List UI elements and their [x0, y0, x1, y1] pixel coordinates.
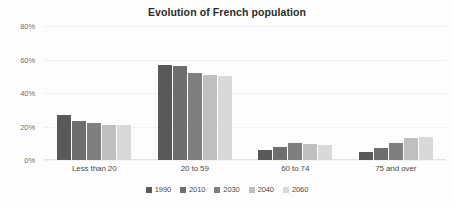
legend-item-2010[interactable]: 2010	[180, 185, 205, 194]
bar-2060-less-than-20	[117, 125, 131, 160]
bar-group	[359, 26, 433, 160]
bar-2030-60-to-74	[288, 143, 302, 160]
bar-2040-75-and-over	[404, 138, 418, 160]
bar-1990-60-to-74	[258, 150, 272, 160]
legend-item-2030[interactable]: 2030	[214, 185, 239, 194]
bar-chart: Evolution of French population 0%20%40%6…	[0, 0, 454, 206]
legend-label: 2040	[258, 185, 274, 194]
bar-2030-75-and-over	[389, 143, 403, 160]
y-axis-tick-label: 40%	[20, 89, 35, 98]
legend-swatch-icon	[214, 187, 220, 193]
legend-swatch-icon	[146, 187, 152, 193]
bar-1990-less-than-20	[57, 115, 71, 160]
legend-swatch-icon	[283, 187, 289, 193]
bar-group	[158, 26, 232, 160]
bar-2010-less-than-20	[72, 121, 86, 160]
plot-area	[44, 26, 446, 160]
chart-title: Evolution of French population	[0, 6, 454, 18]
bar-1990-75-and-over	[359, 152, 373, 160]
bar-2030-less-than-20	[87, 123, 101, 160]
y-axis: 0%20%40%60%80%	[0, 26, 40, 160]
legend-label: 1990	[155, 185, 171, 194]
y-axis-tick-label: 0%	[24, 156, 35, 165]
x-axis-category-label: 20 to 59	[145, 164, 246, 173]
bar-2060-20-to-59	[218, 76, 232, 160]
bar-1990-20-to-59	[158, 65, 172, 160]
chart-legend: 19902010203020402060	[0, 185, 454, 194]
bar-group	[258, 26, 332, 160]
y-axis-tick-label: 20%	[20, 122, 35, 131]
gridline	[44, 160, 446, 161]
y-axis-tick-label: 60%	[20, 55, 35, 64]
bar-2040-60-to-74	[303, 144, 317, 160]
legend-label: 2030	[223, 185, 239, 194]
bar-2040-20-to-59	[203, 75, 217, 160]
x-axis-category-label: 75 and over	[346, 164, 447, 173]
bar-2040-less-than-20	[102, 125, 116, 160]
bar-2010-75-and-over	[374, 148, 388, 160]
legend-label: 2060	[292, 185, 308, 194]
bar-2060-75-and-over	[419, 137, 433, 160]
legend-swatch-icon	[249, 187, 255, 193]
legend-item-2060[interactable]: 2060	[283, 185, 308, 194]
bar-group	[57, 26, 131, 160]
legend-item-2040[interactable]: 2040	[249, 185, 274, 194]
bar-2010-20-to-59	[173, 66, 187, 160]
x-axis-category-label: Less than 20	[44, 164, 145, 173]
legend-swatch-icon	[180, 187, 186, 193]
bar-2010-60-to-74	[273, 147, 287, 160]
legend-label: 2010	[189, 185, 205, 194]
x-axis-category-label: 60 to 74	[245, 164, 346, 173]
y-axis-tick-label: 80%	[20, 22, 35, 31]
bar-2030-20-to-59	[188, 73, 202, 160]
bar-2060-60-to-74	[318, 145, 332, 160]
legend-item-1990[interactable]: 1990	[146, 185, 171, 194]
